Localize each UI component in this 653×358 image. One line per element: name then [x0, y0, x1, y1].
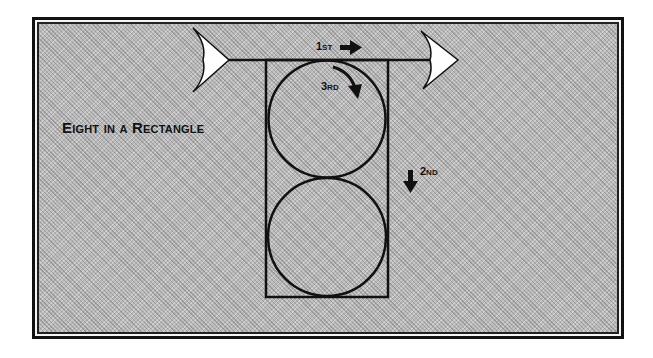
curved-arrowhead-icon [348, 84, 362, 99]
step-2-label: 2nd [420, 165, 438, 177]
right-arrow-icon [340, 40, 362, 55]
diagram-drawing [0, 0, 653, 358]
left-fletching-icon [193, 28, 229, 92]
diagram-title: Eight in a Rectangle [62, 119, 204, 136]
step-3-label: 3rd [321, 80, 339, 92]
step-1-label: 1st [316, 40, 332, 52]
down-arrow-icon [403, 170, 418, 193]
bottom-circle [268, 178, 386, 296]
top-circle [269, 61, 386, 178]
